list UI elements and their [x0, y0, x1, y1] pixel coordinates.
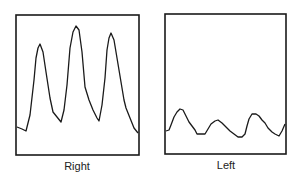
panel-right-frame — [16, 15, 139, 155]
panel-left — [165, 14, 286, 154]
waveform-figure — [0, 0, 299, 181]
panel-right-label: Right — [37, 160, 117, 172]
panel-right — [16, 15, 139, 155]
panel-left-label: Left — [186, 159, 266, 171]
panel-left-frame — [165, 14, 286, 154]
panel-right-waveform — [17, 26, 138, 133]
panel-left-waveform — [166, 109, 285, 137]
